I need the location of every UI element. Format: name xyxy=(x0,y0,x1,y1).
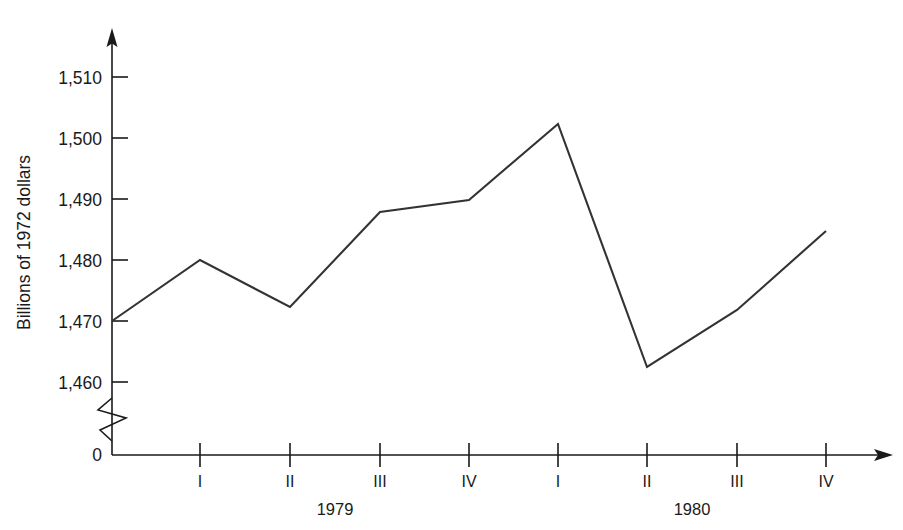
y-axis-title: Billions of 1972 dollars xyxy=(14,155,34,330)
x-tick-label-1979-q3: III xyxy=(373,473,386,490)
series-line-real-gnp xyxy=(112,124,826,367)
x-tick-label-1980-q1: I xyxy=(556,473,560,490)
y-tick-label-1480: 1,480 xyxy=(58,251,102,271)
x-tick-label-1979-q4: IV xyxy=(461,473,476,490)
x-tick-label-1979-q2: II xyxy=(286,473,295,490)
y-tick-marks xyxy=(112,77,128,382)
bottom-cut-text xyxy=(6,525,326,530)
y-tick-label-1490: 1,490 xyxy=(58,190,102,210)
x-tick-label-1980-q4: IV xyxy=(818,473,833,490)
y-tick-label-1510: 1,510 xyxy=(58,68,102,88)
x-tick-label-1979-q1: I xyxy=(198,473,202,490)
x-tick-label-1980-q2: II xyxy=(643,473,652,490)
x-axis xyxy=(112,449,893,461)
y-tick-label-1500: 1,500 xyxy=(58,129,102,149)
y-axis xyxy=(107,28,118,455)
y-tick-label-zero: 0 xyxy=(92,445,102,465)
x-group-label-1980: 1980 xyxy=(674,500,711,518)
line-chart: 1,510 1,500 1,490 1,480 1,470 1,460 0 Bi… xyxy=(0,0,903,530)
chart-figure: 1,510 1,500 1,490 1,480 1,470 1,460 0 Bi… xyxy=(0,0,903,530)
y-tick-label-1470: 1,470 xyxy=(58,312,102,332)
x-group-label-1979: 1979 xyxy=(317,500,354,518)
x-tick-label-1980-q3: III xyxy=(730,473,743,490)
y-tick-label-1460: 1,460 xyxy=(58,373,102,393)
